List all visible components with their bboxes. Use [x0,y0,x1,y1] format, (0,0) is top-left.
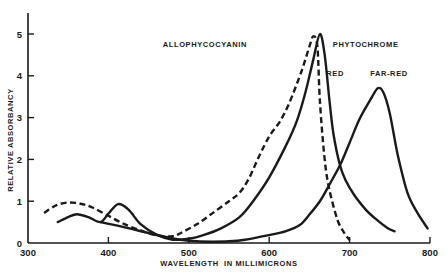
series-phytochrome-red [58,34,395,240]
x-tick-label: 300 [20,247,36,258]
x-tick-label: 600 [261,247,277,258]
x-axis-title: WAVELENGTH IN MILLIMICRONS [160,259,297,268]
annotation-red: RED [326,69,344,78]
y-tick-label: 3 [17,112,22,123]
annotation-allophycocyanin: ALLOPHYCOCYANIN [163,40,247,49]
y-ticks: 012345 [17,29,34,249]
annotation-far-red: FAR-RED [370,69,408,78]
annotations: ALLOPHYCOCYANINPHYTOCHROMEREDFAR-RED [163,40,408,78]
annotation-phytochrome: PHYTOCHROME [333,40,399,49]
y-tick-label: 2 [17,154,22,165]
y-tick-label: 1 [17,196,23,207]
y-tick-label: 4 [17,70,23,81]
x-tick-label: 400 [100,247,116,258]
series-phytochrome-far-red [100,88,427,242]
x-tick-label: 800 [422,247,438,258]
series-layer [44,34,428,242]
y-axis-title: RELATIVE ABSORBANCY [6,88,15,192]
y-axis: 012345 [17,13,34,249]
x-tick-label: 700 [342,247,358,258]
absorbance-chart: 012345 300400500600700800 RELATIVE ABSOR… [0,0,447,274]
x-tick-label: 500 [181,247,197,258]
y-tick-label: 5 [17,29,23,40]
series-allophycocyanin [44,36,350,240]
